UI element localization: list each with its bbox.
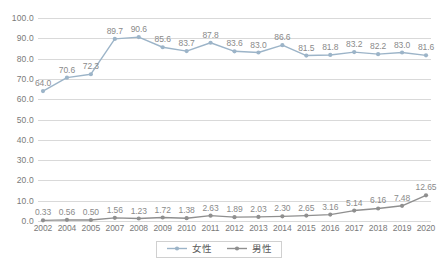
data-point xyxy=(328,212,332,216)
x-tick-label: 2020 xyxy=(417,223,436,233)
data-point xyxy=(208,214,212,218)
data-point xyxy=(376,52,380,56)
data-point xyxy=(232,49,236,53)
x-tick-label: 2009 xyxy=(153,223,172,233)
data-label: 86.6 xyxy=(274,32,290,42)
data-point xyxy=(304,53,308,57)
y-tick-label: 40.0 xyxy=(0,135,34,145)
data-label: 1.56 xyxy=(107,205,123,215)
data-label: 2.03 xyxy=(250,204,266,214)
data-label: 87.8 xyxy=(202,30,218,40)
data-label: 83.7 xyxy=(179,38,195,48)
x-axis: 2002200420052007200820092010201120122013… xyxy=(38,223,431,237)
data-label: 64.0 xyxy=(35,78,51,88)
x-tick-label: 2016 xyxy=(321,223,340,233)
y-tick-label: 30.0 xyxy=(0,155,34,165)
data-label: 2.63 xyxy=(202,203,218,213)
y-tick-label: 60.0 xyxy=(0,94,34,104)
data-label: 0.56 xyxy=(59,207,75,217)
data-point xyxy=(41,218,45,222)
data-label: 72.3 xyxy=(83,61,99,71)
data-point xyxy=(65,218,69,222)
data-point xyxy=(161,45,165,49)
data-point xyxy=(65,76,69,80)
data-point xyxy=(89,218,93,222)
plot-area: 64.070.672.389.790.685.683.787.883.683.0… xyxy=(38,18,431,221)
x-tick-label: 2011 xyxy=(202,223,220,233)
data-point xyxy=(304,214,308,218)
x-tick-label: 2013 xyxy=(249,223,268,233)
data-label: 70.6 xyxy=(59,65,75,75)
data-label: 2.65 xyxy=(298,203,314,213)
data-label: 1.38 xyxy=(179,205,195,215)
data-point xyxy=(208,41,212,45)
y-tick-label: 100.0 xyxy=(0,13,34,23)
data-point xyxy=(352,50,356,54)
x-tick-label: 2002 xyxy=(34,223,53,233)
data-label: 90.6 xyxy=(131,24,147,34)
data-point xyxy=(352,208,356,212)
data-label: 81.8 xyxy=(322,42,338,52)
data-point xyxy=(424,53,428,57)
x-tick-label: 2007 xyxy=(106,223,125,233)
data-label: 83.6 xyxy=(226,38,242,48)
data-label: 7.48 xyxy=(394,193,410,203)
data-label: 3.16 xyxy=(322,202,338,212)
x-tick-label: 2014 xyxy=(273,223,292,233)
legend-line-marker-icon xyxy=(166,244,188,253)
x-tick-label: 2010 xyxy=(177,223,196,233)
data-point xyxy=(256,215,260,219)
data-point xyxy=(137,216,141,220)
data-point xyxy=(89,72,93,76)
gridline xyxy=(38,221,431,222)
data-label: 81.5 xyxy=(298,43,314,53)
data-label: 85.6 xyxy=(155,34,171,44)
data-point xyxy=(137,35,141,39)
data-point xyxy=(185,216,189,220)
data-label: 83.0 xyxy=(394,40,410,50)
data-label: 1.23 xyxy=(131,206,147,216)
data-point xyxy=(185,49,189,53)
data-point xyxy=(113,37,117,41)
x-tick-label: 2015 xyxy=(297,223,316,233)
data-point xyxy=(232,215,236,219)
data-point xyxy=(376,206,380,210)
data-point xyxy=(113,216,117,220)
data-point xyxy=(161,215,165,219)
legend-entry-female[interactable]: 女性 xyxy=(166,244,212,254)
data-point xyxy=(41,89,45,93)
data-label: 5.14 xyxy=(346,198,362,208)
data-label: 83.0 xyxy=(250,40,266,50)
data-label: 89.7 xyxy=(107,26,123,36)
data-point xyxy=(400,50,404,54)
y-tick-label: 80.0 xyxy=(0,54,34,64)
line-chart: 0.010.020.030.040.050.060.070.080.090.01… xyxy=(0,0,437,267)
data-label: 83.2 xyxy=(346,39,362,49)
legend-label: 男性 xyxy=(252,244,272,254)
data-label: 6.16 xyxy=(370,195,386,205)
data-label: 0.33 xyxy=(35,207,51,217)
data-label: 81.6 xyxy=(418,42,434,52)
x-tick-label: 2004 xyxy=(58,223,77,233)
data-label: 0.50 xyxy=(83,207,99,217)
y-tick-label: 0.0 xyxy=(0,216,34,226)
y-tick-label: 50.0 xyxy=(0,115,34,125)
data-label: 1.72 xyxy=(155,205,171,215)
legend-entry-male[interactable]: 男性 xyxy=(226,244,272,254)
data-label: 82.2 xyxy=(370,41,386,51)
x-tick-label: 2018 xyxy=(369,223,388,233)
data-label: 2.30 xyxy=(274,203,290,213)
data-point xyxy=(424,193,428,197)
x-tick-label: 2008 xyxy=(129,223,148,233)
x-tick-label: 2012 xyxy=(225,223,244,233)
data-label: 1.89 xyxy=(226,204,242,214)
x-tick-label: 2019 xyxy=(393,223,412,233)
chart-legend: 女性男性 xyxy=(156,241,282,258)
data-point xyxy=(328,53,332,57)
data-point xyxy=(280,43,284,47)
x-tick-label: 2005 xyxy=(82,223,101,233)
legend-label: 女性 xyxy=(192,244,212,254)
legend-line-marker-icon xyxy=(226,244,248,253)
y-tick-label: 10.0 xyxy=(0,196,34,206)
data-label: 12.65 xyxy=(416,182,437,192)
